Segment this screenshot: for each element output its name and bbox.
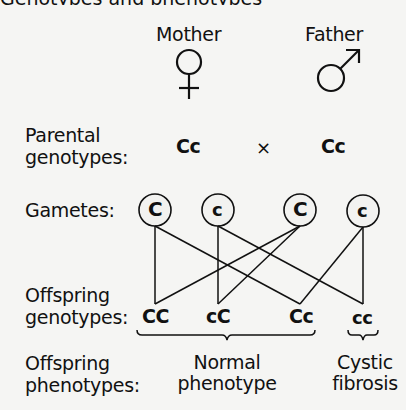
cross-lines — [155, 226, 363, 304]
normal-phenotype-group: Normal phenotype — [177, 352, 277, 394]
offspring-genotypes-label-line2: genotypes: — [25, 308, 128, 327]
offspring-genotypes-label-line1: Offspring — [25, 286, 110, 305]
cystic-fibrosis-group: Cystic fibrosis — [330, 352, 400, 394]
gametes-label: Gametes: — [25, 201, 115, 220]
cystic-fibrosis-line2: fibrosis — [330, 373, 400, 394]
normal-phenotype-line1: Normal — [177, 352, 277, 373]
parental-genotypes-label-line1: Parental — [25, 126, 100, 145]
father-genotype: Cc — [321, 137, 345, 156]
mother-genotype: Cc — [176, 137, 200, 156]
male-symbol-icon — [318, 50, 359, 91]
offspring-phenotypes-label-line1: Offspring — [25, 354, 110, 373]
normal-phenotype-brace — [137, 330, 315, 340]
cystic-fibrosis-line1: Cystic — [330, 352, 400, 373]
parental-genotypes-label-line2: genotypes: — [25, 148, 128, 167]
gamete-4: c — [357, 202, 367, 220]
cross-symbol: × — [256, 139, 271, 157]
offspring-phenotypes-label-line2: phenotypes: — [25, 376, 140, 395]
genetic-cross-diagram: Genotypes and phenotypes (cystic fibrosi… — [0, 0, 406, 410]
gamete-2: c — [212, 201, 222, 219]
female-symbol-icon — [177, 50, 201, 99]
cystic-fibrosis-brace — [348, 330, 378, 340]
normal-phenotype-line2: phenotype — [177, 373, 277, 394]
offspring-genotype-2: cC — [206, 307, 230, 326]
gamete-3: C — [293, 199, 307, 219]
offspring-genotype-3: Cc — [289, 307, 313, 326]
offspring-genotype-4: cc — [352, 309, 372, 327]
gamete-1: C — [148, 199, 162, 219]
offspring-genotype-1: CC — [142, 307, 169, 326]
